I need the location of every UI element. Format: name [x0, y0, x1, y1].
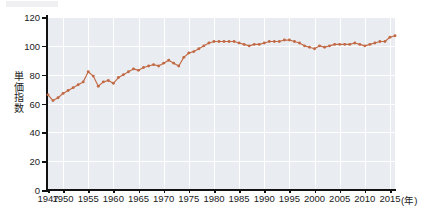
data-point-marker	[137, 69, 140, 72]
data-point-marker	[323, 46, 326, 49]
data-point-marker	[343, 43, 346, 46]
data-point-marker	[92, 75, 95, 78]
data-point-marker	[308, 46, 311, 49]
data-point-marker	[313, 47, 316, 50]
data-point-marker	[258, 43, 261, 46]
data-point-marker	[303, 44, 306, 47]
data-point-marker	[82, 80, 85, 83]
data-point-marker	[218, 40, 221, 43]
data-point-marker	[268, 40, 271, 43]
data-point-marker	[288, 39, 291, 42]
chart-figure: 020406080100120 194719501955196019651970…	[0, 0, 428, 224]
data-point-marker	[363, 44, 366, 47]
data-point-marker	[77, 83, 80, 86]
data-point-marker	[57, 96, 60, 99]
data-point-marker	[348, 43, 351, 46]
data-point-marker	[202, 44, 205, 47]
data-point-marker	[197, 47, 200, 50]
series-layer	[0, 0, 428, 224]
data-point-marker	[389, 36, 392, 39]
data-point-marker	[328, 44, 331, 47]
data-point-marker	[167, 59, 170, 62]
data-point-marker	[172, 62, 175, 65]
data-point-marker	[394, 34, 397, 37]
data-point-marker	[333, 43, 336, 46]
data-point-marker	[162, 62, 165, 65]
data-point-marker	[147, 65, 150, 68]
data-point-marker	[97, 85, 100, 88]
data-point-marker	[62, 92, 65, 95]
data-point-marker	[243, 43, 246, 46]
data-point-marker	[142, 66, 145, 69]
data-point-marker	[293, 40, 296, 43]
data-point-marker	[358, 43, 361, 46]
data-point-marker	[152, 63, 155, 66]
data-point-marker	[107, 79, 110, 82]
data-point-marker	[67, 89, 70, 92]
data-point-marker	[87, 70, 90, 73]
data-point-marker	[298, 42, 301, 45]
data-point-marker	[52, 99, 55, 102]
data-point-marker	[132, 67, 135, 70]
data-point-marker	[353, 42, 356, 45]
data-point-marker	[248, 44, 251, 47]
data-point-marker	[378, 40, 381, 43]
data-point-marker	[117, 76, 120, 79]
data-point-marker	[187, 52, 190, 55]
series-line	[48, 36, 395, 101]
data-point-marker	[273, 40, 276, 43]
data-point-marker	[122, 73, 125, 76]
data-point-marker	[318, 44, 321, 47]
data-point-marker	[72, 86, 75, 89]
data-point-marker	[383, 40, 386, 43]
data-point-marker	[182, 56, 185, 59]
data-point-marker	[373, 42, 376, 45]
data-point-marker	[213, 40, 216, 43]
data-point-marker	[157, 65, 160, 68]
data-point-marker	[192, 50, 195, 53]
data-point-marker	[228, 40, 231, 43]
data-point-marker	[283, 39, 286, 42]
data-point-marker	[223, 40, 226, 43]
data-point-marker	[127, 70, 130, 73]
data-point-marker	[47, 93, 50, 96]
data-point-marker	[338, 43, 341, 46]
data-point-marker	[112, 82, 115, 85]
data-point-marker	[278, 40, 281, 43]
data-point-marker	[233, 40, 236, 43]
data-point-marker	[263, 42, 266, 45]
data-point-marker	[177, 65, 180, 68]
data-point-marker	[368, 43, 371, 46]
data-point-marker	[102, 80, 105, 83]
data-point-marker	[238, 42, 241, 45]
data-point-marker	[207, 42, 210, 45]
data-point-marker	[253, 43, 256, 46]
